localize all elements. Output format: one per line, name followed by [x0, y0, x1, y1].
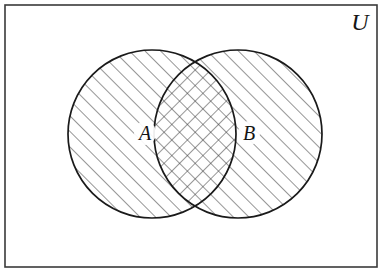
set-label-a: A: [137, 122, 152, 144]
venn-diagram-canvas: A B U: [0, 0, 382, 274]
universe-label: U: [351, 9, 370, 35]
set-label-b: B: [243, 122, 255, 144]
venn-diagram-figure: A B U: [0, 0, 382, 274]
